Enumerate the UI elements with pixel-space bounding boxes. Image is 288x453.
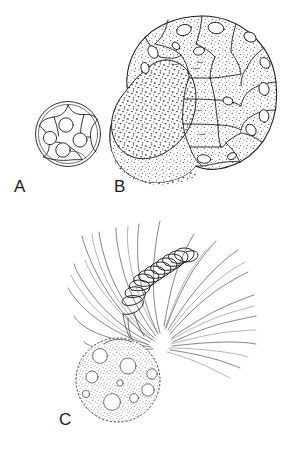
panel-label-b: B — [114, 177, 126, 196]
panel-c-vacuole — [130, 394, 139, 403]
panel-c-vacuole — [120, 358, 136, 374]
figure-canvas: A B C — [0, 0, 288, 453]
panel-c-vacuole — [147, 369, 157, 379]
panel-a-nucleus — [56, 143, 70, 157]
panel-c-vacuole — [104, 394, 121, 411]
panel-label-c: C — [59, 410, 72, 429]
panel-a-drawing — [36, 102, 101, 167]
panel-a-nucleus — [59, 118, 73, 132]
panel-c-vacuole — [93, 349, 108, 364]
panel-a-nucleus — [43, 131, 56, 144]
panel-c-vacuole — [86, 371, 98, 383]
panel-c-vacuole — [142, 384, 154, 396]
panel-a-nucleus — [73, 133, 87, 147]
panel-c-vacuole — [82, 390, 89, 397]
panel-label-a: A — [14, 177, 26, 196]
panel-c-vacuole — [117, 380, 123, 386]
figure-plate: A B C — [0, 0, 288, 453]
